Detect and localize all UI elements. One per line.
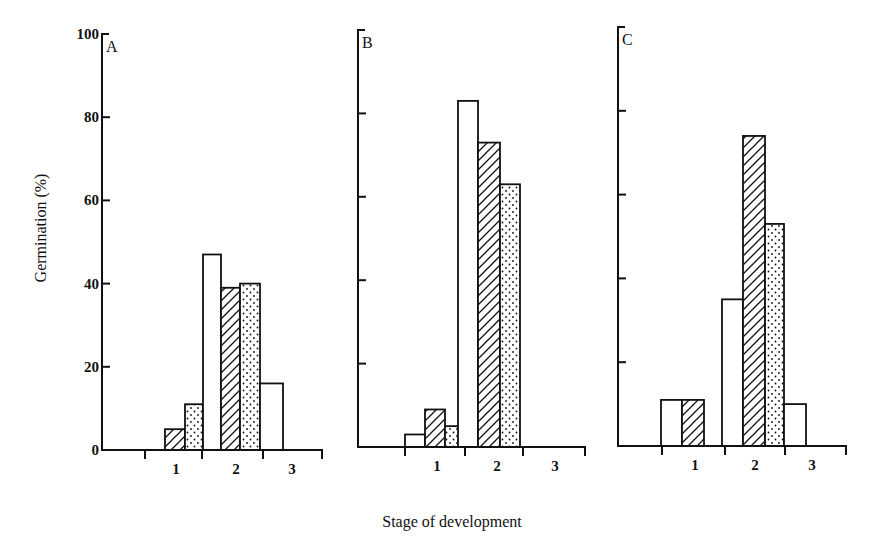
bar-a-open-3 (203, 254, 221, 450)
panel-label-a: A (106, 38, 118, 55)
x-axis-title: Stage of development (382, 513, 522, 531)
bar-c-hatched-2 (682, 400, 704, 446)
bar-a-dotted-2 (185, 404, 203, 450)
bar-c-hatched-4 (743, 136, 765, 446)
bar-a-dotted-5 (240, 284, 260, 450)
y-tick-label-20: 20 (84, 359, 99, 375)
x-tick-label-c-3: 3 (808, 457, 816, 473)
y-tick-label-80: 80 (84, 109, 99, 125)
panel-label-b: B (362, 34, 373, 51)
y-tick-label-0: 0 (92, 442, 100, 458)
y-axis-title: Germination (%) (32, 174, 50, 283)
x-tick-label-b-1: 1 (433, 458, 441, 474)
bar-c-open-3 (722, 299, 743, 446)
bar-a-open-6 (260, 383, 283, 450)
bar-c-dotted-5 (765, 224, 784, 446)
x-tick-label-b-3: 3 (551, 458, 559, 474)
x-tick-label-a-2: 2 (232, 461, 240, 477)
x-tick-label-c-1: 1 (691, 457, 699, 473)
y-tick-label-40: 40 (84, 276, 99, 292)
bar-c-open-1 (661, 400, 682, 446)
bar-b-hatched-2 (425, 409, 445, 447)
x-tick-label-a-3: 3 (288, 461, 296, 477)
bar-b-open-4 (458, 101, 478, 447)
germination-chart: Germination (%) Stage of development 020… (0, 0, 872, 553)
panel-c: 123C (618, 27, 846, 473)
bar-a-hatched-4 (221, 288, 240, 450)
bar-b-hatched-5 (478, 143, 500, 447)
y-tick-label-100: 100 (77, 26, 100, 42)
x-tick-label-a-1: 1 (172, 461, 180, 477)
x-tick-label-c-2: 2 (751, 457, 759, 473)
panel-b: 123B (358, 30, 585, 474)
bar-b-open-1 (405, 434, 425, 447)
panel-label-c: C (622, 31, 633, 48)
panel-a: 020406080100123A (77, 26, 323, 477)
x-tick-label-b-2: 2 (493, 458, 501, 474)
bar-c-open-6 (784, 404, 806, 446)
bar-b-dotted-6 (500, 184, 520, 447)
y-tick-label-60: 60 (84, 192, 99, 208)
bar-a-hatched-1 (165, 429, 185, 450)
